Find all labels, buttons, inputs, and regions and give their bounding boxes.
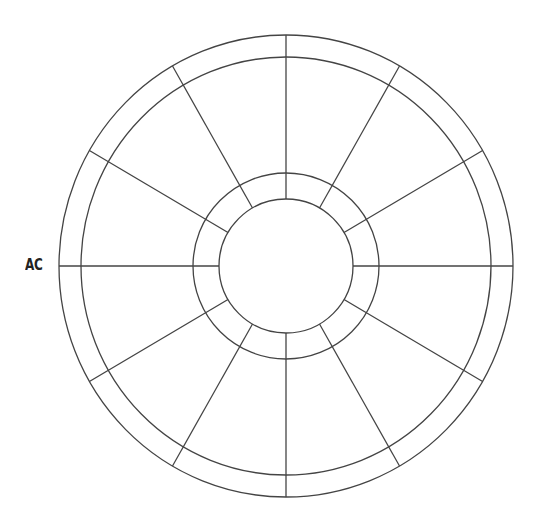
- ring-inner: [219, 199, 353, 333]
- house-cusp-line-11: [320, 66, 400, 208]
- house-cusp-line-6: [89, 300, 228, 382]
- house-cusp-line-9: [173, 66, 253, 208]
- house-cusp-line-8: [89, 151, 228, 233]
- ring-house-band-outer: [193, 173, 379, 359]
- house-cusp-line-12: [344, 151, 483, 233]
- house-cusp-line-2: [344, 300, 483, 382]
- house-cusp-line-5: [173, 324, 253, 466]
- ascendant-label: AC: [25, 256, 42, 274]
- house-cusp-line-3: [320, 324, 400, 466]
- wheel-svg: [0, 0, 541, 529]
